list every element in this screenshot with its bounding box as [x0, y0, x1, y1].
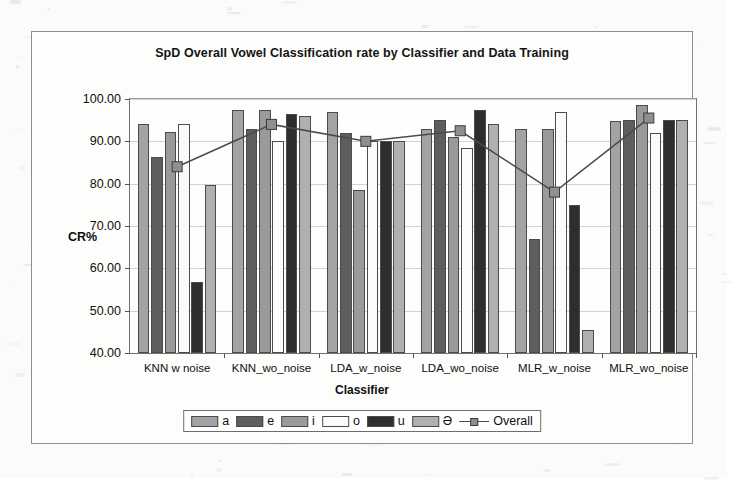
overall-marker	[455, 126, 465, 136]
legend-label: Overall	[493, 414, 533, 428]
x-axis-tick	[602, 353, 603, 358]
legend-label: o	[353, 414, 360, 428]
page-speckle	[342, 473, 352, 476]
overall-marker	[172, 162, 182, 172]
x-axis-tick-label: MLR_w_noise	[518, 362, 591, 374]
y-axis-tick-label: 40.00	[90, 346, 121, 360]
page-speckle	[281, 1, 298, 5]
overall-line-series	[130, 99, 696, 353]
overall-marker	[267, 119, 277, 129]
x-axis-tick	[413, 353, 414, 358]
page-speckle	[13, 129, 26, 130]
page-speckle	[704, 477, 719, 479]
page-speckle	[16, 65, 19, 68]
page-speckle	[423, 474, 431, 476]
x-axis-tick-label: LDA_w_noise	[330, 362, 401, 374]
legend-swatch	[191, 416, 218, 427]
legend-swatch	[236, 416, 263, 427]
overall-line	[177, 118, 649, 192]
legend-swatch	[412, 416, 439, 427]
legend-item[interactable]: o	[322, 414, 360, 428]
page-speckle	[697, 44, 700, 46]
page-speckle	[135, 473, 138, 476]
legend-item[interactable]: u	[367, 414, 405, 428]
x-axis-title: Classifier	[32, 383, 692, 397]
x-axis-tick	[696, 353, 697, 358]
page-speckle	[218, 460, 222, 462]
page-speckle	[15, 373, 25, 377]
page-speckle	[191, 475, 194, 478]
legend-item[interactable]: i	[281, 414, 315, 428]
overall-marker	[361, 136, 371, 146]
page-speckle	[421, 25, 428, 28]
legend-swatch	[281, 416, 308, 427]
y-axis-tick-label: 50.00	[90, 304, 121, 318]
legend-item[interactable]: e	[236, 414, 274, 428]
page-speckle	[707, 127, 721, 131]
page-speckle	[279, 444, 289, 445]
x-axis-tick-label: KNN w noise	[144, 362, 210, 374]
page-speckle	[543, 469, 551, 472]
page-speckle	[227, 7, 232, 11]
page-speckle	[464, 26, 479, 28]
legend-label: u	[398, 414, 405, 428]
overall-marker	[550, 187, 560, 197]
page-speckle	[595, 26, 598, 28]
legend-item[interactable]: Overall	[459, 414, 533, 428]
page-speckle	[19, 166, 25, 169]
chart-title: SpD Overall Vowel Classification rate by…	[32, 46, 692, 60]
page-speckle	[721, 281, 732, 283]
page-speckle	[604, 463, 621, 466]
legend-line-marker-icon	[459, 416, 489, 427]
legend-label: a	[222, 414, 229, 428]
page-speckle	[6, 342, 20, 346]
page-speckle	[216, 468, 222, 472]
y-axis-tick	[125, 353, 130, 354]
x-axis-tick	[319, 353, 320, 358]
legend-label: e	[267, 414, 274, 428]
legend-item[interactable]: Ə	[412, 414, 452, 428]
page-speckle	[706, 234, 713, 236]
page-speckle	[47, 8, 51, 10]
chart-frame: SpD Overall Vowel Classification rate by…	[31, 31, 693, 444]
overall-marker	[644, 113, 654, 123]
legend-swatch	[367, 416, 394, 427]
y-axis-tick-label: 60.00	[90, 261, 121, 275]
page-speckle	[10, 0, 21, 3]
chart-legend: aeiouƏOverall	[183, 410, 541, 432]
x-axis-tick	[507, 353, 508, 358]
y-axis-tick-label: 80.00	[90, 177, 121, 191]
y-axis-tick-label: 70.00	[90, 219, 121, 233]
legend-swatch	[322, 416, 349, 427]
page-speckle	[699, 201, 715, 205]
page-speckle	[12, 286, 15, 287]
x-axis-tick-label: MLR_wo_noise	[609, 362, 688, 374]
y-axis-tick-label: 90.00	[90, 134, 121, 148]
page-speckle	[17, 56, 27, 57]
page-speckle	[703, 142, 715, 144]
legend-label: i	[312, 414, 315, 428]
y-axis-tick-label: 100.00	[83, 92, 121, 106]
page-speckle	[722, 273, 727, 275]
x-axis-tick-label: KNN_wo_noise	[232, 362, 311, 374]
x-axis-tick-label: LDA_wo_noise	[421, 362, 498, 374]
plot-area: 100.0090.0080.0070.0060.0050.0040.00 KNN…	[129, 98, 697, 354]
legend-label: Ə	[443, 414, 452, 428]
page-speckle	[227, 12, 241, 14]
legend-item[interactable]: a	[191, 414, 229, 428]
x-axis-tick	[224, 353, 225, 358]
